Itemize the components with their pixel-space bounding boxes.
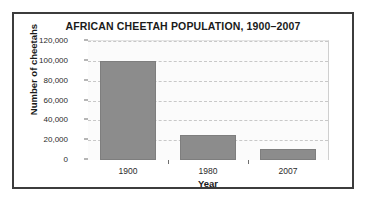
y-tick-mark (84, 59, 88, 60)
y-tick-label: 80,000 (16, 75, 68, 84)
plot-area (88, 40, 329, 160)
figure-inner: AFRICAN CHEETAH POPULATION, 1900–2007 Nu… (14, 14, 352, 187)
x-tick-label: 2007 (279, 166, 298, 176)
y-tick-label: 100,000 (16, 55, 68, 64)
y-tick-mark (84, 119, 88, 120)
y-tick-mark (84, 40, 88, 41)
bar (100, 61, 156, 160)
bar (260, 149, 316, 160)
y-tick-mark (84, 99, 88, 100)
x-axis-title: Year (88, 178, 328, 189)
y-tick-label: 120,000 (16, 36, 68, 45)
figure-frame: AFRICAN CHEETAH POPULATION, 1900–2007 Nu… (12, 12, 354, 189)
y-tick-label: 40,000 (16, 115, 68, 124)
y-tick-mark (84, 79, 88, 80)
y-tick-mark (84, 139, 88, 140)
y-tick-label: 0 (16, 155, 68, 164)
x-tick-mark (168, 160, 169, 164)
y-axis-title: Number of cheetahs (28, 15, 39, 125)
x-tick-label: 1900 (119, 166, 138, 176)
bar (180, 135, 236, 160)
y-tick-label: 20,000 (16, 135, 68, 144)
chart-title: AFRICAN CHEETAH POPULATION, 1900–2007 (14, 20, 352, 32)
y-tick-mark (84, 159, 88, 160)
gridline (88, 41, 328, 42)
x-tick-mark (248, 160, 249, 164)
y-tick-label: 60,000 (16, 95, 68, 104)
x-tick-label: 1980 (199, 166, 218, 176)
